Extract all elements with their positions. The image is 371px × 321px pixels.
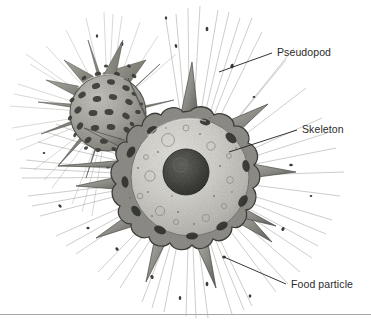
label-pseudopod: Pseudopod (277, 46, 331, 58)
label-skeleton: Skeleton (302, 123, 344, 135)
label-food-particle: Food particle (291, 278, 353, 290)
nucleus (163, 149, 209, 195)
bottom-divider (0, 314, 371, 315)
